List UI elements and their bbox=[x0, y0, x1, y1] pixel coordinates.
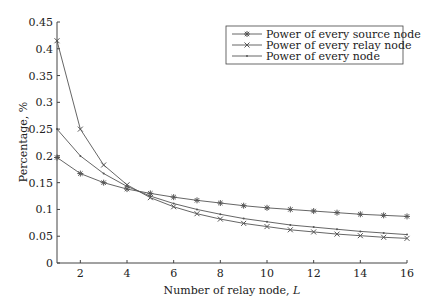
x-tick-label: 2 bbox=[77, 267, 84, 280]
legend: Power of every source nodePower of every… bbox=[226, 26, 421, 64]
x-tick-label: 12 bbox=[307, 267, 321, 280]
y-tick-label: 0.4 bbox=[36, 43, 54, 56]
x-tick-label: 16 bbox=[400, 267, 414, 280]
series-x bbox=[55, 38, 410, 241]
x-tick-label: 10 bbox=[260, 267, 274, 280]
x-tick-label: 8 bbox=[217, 267, 224, 280]
y-tick-label: 0.45 bbox=[29, 16, 54, 29]
x-tick-label: 4 bbox=[124, 267, 131, 280]
x-tick-label: 14 bbox=[353, 267, 367, 280]
y-tick-label: 0.35 bbox=[29, 70, 54, 83]
y-tick-label: 0.15 bbox=[29, 177, 54, 190]
plot-area bbox=[54, 38, 410, 241]
legend-label: Power of every node bbox=[266, 50, 380, 63]
y-tick-label: 0 bbox=[46, 257, 53, 270]
x-tick-label: 6 bbox=[170, 267, 177, 280]
series-asterisk bbox=[54, 154, 410, 219]
y-tick-label: 0.3 bbox=[36, 96, 54, 109]
y-tick-label: 0.05 bbox=[29, 230, 54, 243]
series-dot bbox=[56, 128, 408, 236]
y-tick-label: 0.1 bbox=[36, 203, 54, 216]
y-tick-label: 0.2 bbox=[36, 150, 54, 163]
y-axis-label: Percentage, % bbox=[17, 102, 30, 182]
line-chart: 00.050.10.150.20.250.30.350.40.452468101… bbox=[0, 0, 427, 306]
x-axis-label: Number of relay node, L bbox=[164, 284, 301, 297]
y-tick-label: 0.25 bbox=[29, 123, 54, 136]
